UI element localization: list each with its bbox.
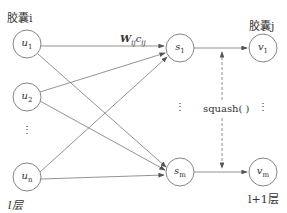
routing-edges bbox=[38, 46, 167, 179]
node-v1-label: v1 bbox=[258, 41, 268, 55]
left-ellipsis: ⋮ bbox=[22, 128, 32, 132]
right-layer-footer: l+1层 bbox=[248, 190, 279, 206]
right-ellipsis: ⋮ bbox=[258, 105, 268, 109]
weight-coupling-label: Wijcij bbox=[120, 33, 146, 47]
left-layer-header: 胶囊i bbox=[7, 9, 33, 25]
node-un-label: un bbox=[22, 170, 33, 184]
node-s1-label: s1 bbox=[175, 41, 185, 55]
edge-un-s1 bbox=[40, 57, 167, 172]
node-u2-label: u2 bbox=[22, 90, 33, 104]
node-vm-label: vm bbox=[257, 165, 269, 179]
right-layer-header: 胶囊j bbox=[249, 17, 274, 33]
left-layer-footer: l层 bbox=[8, 196, 23, 212]
node-u1-label: u1 bbox=[22, 37, 33, 51]
node-sm-label: sm bbox=[174, 165, 186, 179]
middle-ellipsis: ⋮ bbox=[175, 105, 185, 109]
edge-un-sm bbox=[41, 175, 164, 179]
squash-function-label: squash( ) bbox=[203, 103, 250, 114]
